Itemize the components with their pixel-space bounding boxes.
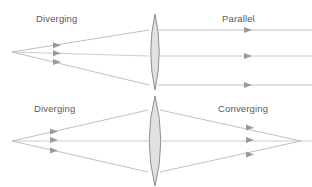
panel-diverging-to-parallel: Diverging Parallel [12, 13, 312, 90]
arrow-right-icon [244, 53, 252, 59]
lower-incoming-ray-top [12, 110, 148, 141]
lower-input-label: Diverging [34, 103, 75, 114]
arrow-right-icon [244, 82, 252, 88]
arrow-right-icon [53, 59, 61, 65]
upper-incoming-arrowheads [53, 42, 61, 65]
upper-incoming-ray-top [12, 30, 149, 52]
upper-incoming-rays [12, 30, 149, 85]
upper-outgoing-arrowheads [244, 27, 252, 88]
arrow-right-icon [50, 129, 58, 135]
upper-incoming-ray-bottom [12, 52, 149, 85]
lower-outgoing-ray-top [160, 110, 301, 141]
lower-outgoing-rays [160, 110, 312, 172]
lower-output-label: Converging [218, 103, 268, 114]
diagram-canvas: Diverging Parallel [0, 0, 312, 187]
lens-ray-diagram: Diverging Parallel [0, 0, 312, 187]
arrow-right-icon [50, 137, 58, 143]
lower-outgoing-ray-bottom [160, 141, 301, 172]
upper-lens [151, 14, 160, 90]
upper-outgoing-rays [158, 30, 312, 85]
arrow-right-icon [244, 27, 252, 33]
arrow-right-icon [53, 42, 61, 48]
upper-incoming-ray-axis [12, 52, 149, 56]
upper-output-label: Parallel [222, 13, 255, 24]
lower-incoming-rays [12, 110, 148, 172]
lower-incoming-ray-bottom [12, 141, 148, 172]
arrow-right-icon [246, 137, 254, 143]
upper-input-label: Diverging [36, 13, 77, 24]
arrow-right-icon [50, 148, 58, 154]
panel-diverging-to-converging: Diverging Converging [12, 96, 312, 186]
lower-lens [149, 96, 161, 186]
arrow-right-icon [53, 50, 61, 56]
